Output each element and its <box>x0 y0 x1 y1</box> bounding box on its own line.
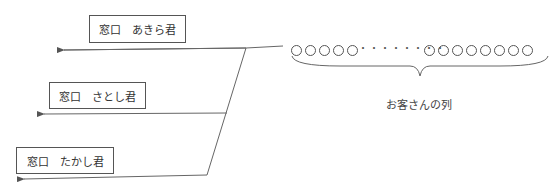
window-box-akira: 窓口 あきら君 <box>89 15 186 43</box>
window-label: 窓口 あきら君 <box>99 21 176 37</box>
branch-line <box>207 48 246 175</box>
customer-circle <box>291 45 302 56</box>
customer-circle <box>508 45 519 56</box>
window-label: 窓口 さとし君 <box>59 88 136 104</box>
customer-circle <box>466 45 477 56</box>
window-box-takashi: 窓口 たかし君 <box>16 147 114 174</box>
customer-group-back <box>424 41 536 60</box>
arrow-to-window-1 <box>64 48 246 50</box>
customer-circle <box>494 45 505 56</box>
customer-circle <box>438 45 449 56</box>
customer-circle <box>424 45 435 56</box>
window-label: 窓口 たかし君 <box>27 153 104 169</box>
window-box-satoshi: 窓口 さとし君 <box>49 82 146 109</box>
customer-circle <box>319 45 330 56</box>
customer-circle <box>305 45 316 56</box>
customer-circle <box>452 45 463 56</box>
arrow-to-window-3 <box>24 175 207 179</box>
customer-circle <box>522 45 533 56</box>
customer-circle <box>347 45 358 56</box>
customer-circle <box>333 45 344 56</box>
customer-group-front <box>291 41 361 60</box>
queue-label: お客さんの列 <box>386 96 452 112</box>
customer-circle <box>480 45 491 56</box>
arrow-to-window-2 <box>44 113 227 114</box>
